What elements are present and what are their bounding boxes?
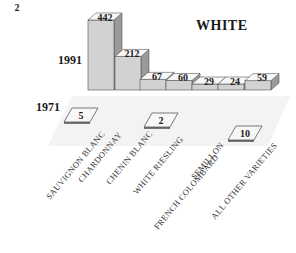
bar-value-1991: 24 bbox=[230, 76, 240, 87]
bar-value-1991: 60 bbox=[178, 72, 188, 83]
chart-container: WHITE 1991 1971 442212676029245952210SAU… bbox=[0, 0, 296, 253]
bar-value-1971: 2 bbox=[159, 115, 164, 126]
bar-value-1971: 10 bbox=[240, 128, 250, 139]
bar-value-1991: 29 bbox=[204, 76, 214, 87]
bar-value-1991: 59 bbox=[257, 72, 267, 83]
bar-value-1991: 67 bbox=[152, 71, 162, 82]
category-label: SEMILLON bbox=[189, 140, 226, 181]
bar-value-1971: 2 bbox=[15, 2, 20, 13]
bar-value-1991: 212 bbox=[125, 48, 140, 59]
bar-value-1971: 5 bbox=[79, 110, 84, 121]
bar-1991-6: 59 bbox=[245, 72, 279, 90]
bar-chart-3d: 442212676029245952210SAUVIGNON BLANCCHAR… bbox=[0, 0, 296, 253]
bar-1971-3: 2 bbox=[15, 2, 20, 13]
bar-value-1991: 442 bbox=[98, 12, 113, 23]
